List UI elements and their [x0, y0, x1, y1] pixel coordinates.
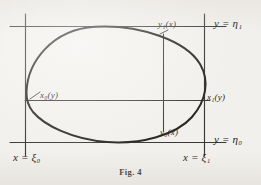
oval-boundary-curve — [26, 27, 205, 143]
label-y0-of-x: y₀(x) — [160, 128, 178, 137]
label-x-xi1-text: x = ξ₁ — [183, 151, 211, 163]
label-x-xi1: x = ξ₁ — [183, 152, 211, 163]
y1-leader-line — [160, 30, 168, 34]
label-y-eta0-text: y = η₀ — [214, 133, 242, 145]
label-y1-of-x: y₁(x) — [158, 20, 176, 29]
figure-container: y = η₁ y = η₀ x = ξ₀ x = ξ₁ y₁(x) y₀(x) … — [0, 0, 261, 185]
figure-caption: Fig. 4 — [0, 167, 261, 177]
label-x0-of-y-text: x₀(y) — [40, 90, 58, 100]
label-x0-of-y: x₀(y) — [40, 91, 58, 100]
label-y0-of-x-text: y₀(x) — [160, 127, 178, 137]
x0-leader-line — [30, 92, 40, 99]
label-x1-of-y: x₁(y) — [207, 93, 225, 102]
label-y-eta1-text: y = η₁ — [214, 17, 242, 29]
label-x-xi0: x = ξ₀ — [13, 152, 41, 163]
label-y1-of-x-text: y₁(x) — [158, 19, 176, 29]
label-y-eta1: y = η₁ — [214, 18, 242, 29]
label-x1-of-y-text: x₁(y) — [207, 92, 225, 102]
label-x-xi0-text: x = ξ₀ — [13, 151, 41, 163]
label-y-eta0: y = η₀ — [214, 134, 242, 145]
